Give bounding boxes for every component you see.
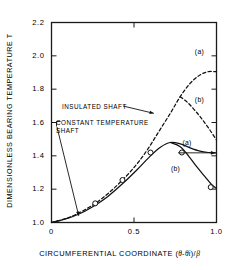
insulated-b-label: (b) (195, 96, 204, 103)
curve-constant-temperature-shaft-a (52, 142, 217, 222)
data-markers (93, 150, 214, 206)
y-tick-label: 1.6 (19, 118, 45, 127)
constant-a-label: (a) (182, 139, 191, 146)
y-tick-label: 2.2 (19, 18, 45, 27)
curve-insulated-shaft-b (180, 97, 216, 140)
data-point-marker (120, 178, 125, 183)
x-axis-title: CIRCUMFERENTIAL COORDINATE (θ-θi)/β (0, 249, 239, 258)
x-tick-label: 0.5 (119, 227, 149, 236)
annotation-leaders (57, 100, 216, 216)
y-tick-label: 1.4 (19, 151, 45, 160)
x-axis-title-beta: β (196, 249, 200, 258)
insulated-shaft-annotation: INSULATED SHAFT (62, 103, 127, 111)
x-axis-title-prefix: CIRCUMFERENTIAL COORDINATE ( (39, 249, 178, 258)
curves (52, 71, 217, 222)
data-point-marker (148, 150, 153, 155)
x-tick-label: 1.0 (202, 227, 232, 236)
y-tick-label: 1.0 (19, 218, 45, 227)
y-tick-label: 2.0 (19, 51, 45, 60)
constant-temperature-shaft-annotation: CONSTANT TEMPERATURE SHAFT (56, 119, 149, 135)
data-point-marker (93, 201, 98, 206)
constant-a-leader-arrowhead (211, 151, 216, 155)
y-tick-label: 1.2 (19, 184, 45, 193)
insulated-shaft-leader (123, 106, 154, 113)
y-tick-label: 1.8 (19, 84, 45, 93)
insulated-a-label: (a) (195, 48, 204, 55)
constant-temperature-shaft-annotation-line2: SHAFT (56, 127, 149, 135)
constant-temperature-shaft-annotation-line1: CONSTANT TEMPERATURE (56, 119, 149, 127)
constant-temperature-shaft-leader (57, 127, 79, 216)
curve-insulated-shaft-a (52, 71, 217, 222)
data-point-marker (208, 185, 213, 190)
x-tick-label: 0 (37, 227, 67, 236)
figure-root: DIMENSIONLESS BEARING TEMPERATURE T 1.01… (0, 0, 239, 270)
constant-b-label: (b) (171, 165, 180, 172)
